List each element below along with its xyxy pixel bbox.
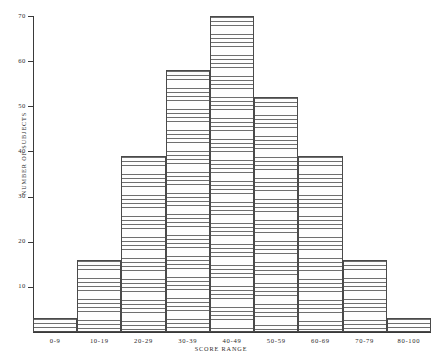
- histogram-bar: [254, 97, 298, 332]
- y-axis-tick-label: 50: [18, 102, 26, 109]
- y-axis-tick-label: 70: [18, 12, 26, 19]
- histogram-bar: [166, 70, 210, 332]
- x-axis-tick-label: 70-79: [343, 337, 387, 344]
- y-axis-tick-label: 30: [18, 192, 26, 199]
- x-axis-tick-label: 10-19: [77, 337, 121, 344]
- histogram-bar: [77, 260, 121, 332]
- histogram-bar: [33, 318, 77, 332]
- histogram-bar: [387, 318, 431, 332]
- plot-area: 10203040506070 0-910-1920-2930-3940-4950…: [33, 16, 431, 332]
- histogram-chart: NUMBER OF SUBJECTS 10203040506070 0-910-…: [0, 0, 442, 361]
- x-axis-tick-label: 20-29: [121, 337, 165, 344]
- x-axis-tick-label: 60-69: [298, 337, 342, 344]
- histogram-bar: [210, 16, 254, 332]
- y-axis-tick-label: 10: [18, 282, 26, 289]
- x-axis-tick-label: 0-9: [33, 337, 77, 344]
- y-axis-tick-label: 40: [18, 147, 26, 154]
- histogram-bar: [298, 156, 342, 332]
- x-axis-tick-label: 40-49: [210, 337, 254, 344]
- histogram-bar: [121, 156, 165, 332]
- x-axis-title: SCORE RANGE: [0, 345, 442, 352]
- y-axis-tick-label: 60: [18, 57, 26, 64]
- x-axis-tick-label: 30-39: [166, 337, 210, 344]
- bar-series: [33, 16, 431, 332]
- y-axis-tick-label: 20: [18, 237, 26, 244]
- x-axis-tick-label: 80-100: [387, 337, 431, 344]
- histogram-bar: [343, 260, 387, 332]
- x-axis-line: [33, 332, 431, 333]
- x-axis-tick-label: 50-59: [254, 337, 298, 344]
